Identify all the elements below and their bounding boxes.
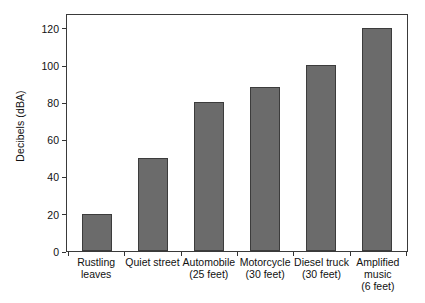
- y-axis-tick-label: 100: [41, 61, 62, 72]
- bar-slot: [125, 15, 181, 251]
- y-axis-tick-label: 60: [47, 135, 62, 146]
- x-axis-category-label: Quiet street: [124, 256, 180, 292]
- y-axis-tick-label: 0: [53, 247, 62, 258]
- x-axis-category-label-line: (6 feet): [350, 280, 406, 292]
- y-axis-title-text: Decibels (dBA): [14, 90, 26, 161]
- bar-slot: [69, 15, 125, 251]
- y-axis-title: Decibels (dBA): [10, 0, 30, 252]
- bar[interactable]: [362, 28, 392, 251]
- plot-area: [66, 14, 408, 252]
- y-axis-tick-label: 80: [47, 98, 62, 109]
- x-axis-category-label: Rustlingleaves: [68, 256, 124, 292]
- x-axis-category-label: Amplifiedmusic(6 feet): [350, 256, 406, 292]
- bar[interactable]: [306, 65, 336, 251]
- bar-slot: [181, 15, 237, 251]
- x-axis-category-label-line: (30 feet): [293, 268, 349, 280]
- x-axis-category-label-line: (30 feet): [237, 268, 293, 280]
- x-axis-labels: RustlingleavesQuiet streetAutomobile(25 …: [66, 256, 408, 292]
- bar-slot: [349, 15, 405, 251]
- bar[interactable]: [138, 158, 168, 251]
- x-axis-category-label-line: Automobile: [181, 256, 237, 268]
- y-axis-ticks: 020406080100120: [30, 14, 66, 252]
- x-axis-category-label: Diesel truck(30 feet): [293, 256, 349, 292]
- x-axis-category-label-line: Rustling: [68, 256, 124, 268]
- x-axis-category-label-line: music: [350, 268, 406, 280]
- bar-series: [67, 15, 407, 251]
- x-axis-category-label-line: Amplified: [350, 256, 406, 268]
- x-axis-category-label-line: Diesel truck: [293, 256, 349, 268]
- x-axis-category-label: Automobile(25 feet): [181, 256, 237, 292]
- bar-slot: [237, 15, 293, 251]
- y-axis-tick-label: 20: [47, 210, 62, 221]
- x-axis-category-label-line: Quiet street: [124, 256, 180, 268]
- bar[interactable]: [250, 87, 280, 251]
- y-axis-tick-label: 40: [47, 172, 62, 183]
- bar[interactable]: [82, 214, 112, 251]
- y-axis-tick-label: 120: [41, 24, 62, 35]
- bar[interactable]: [194, 102, 224, 251]
- x-axis-category-label-line: Motorcycle: [237, 256, 293, 268]
- x-axis-category-label-line: (25 feet): [181, 268, 237, 280]
- bar-slot: [293, 15, 349, 251]
- bar-chart-figure: Decibels (dBA) 020406080100120 Rustlingl…: [0, 0, 425, 303]
- x-axis-category-label: Motorcycle(30 feet): [237, 256, 293, 292]
- x-axis-category-label-line: leaves: [68, 268, 124, 280]
